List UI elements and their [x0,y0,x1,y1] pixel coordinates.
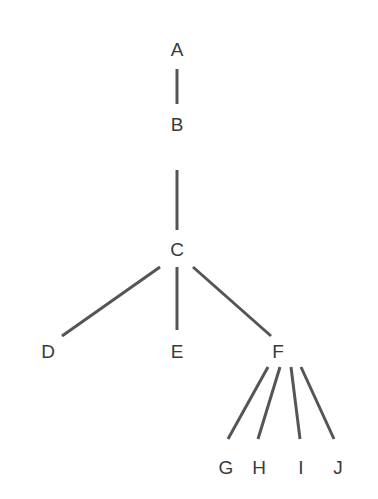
edge-c-f [193,267,271,336]
tree-diagram: A B C D E F G H I J [0,0,378,499]
node-i: I [298,457,303,478]
node-c: C [170,239,184,260]
node-a: A [171,39,184,60]
node-e: E [171,341,184,362]
edges [62,69,334,439]
edge-f-i [291,367,300,439]
node-j: J [333,457,343,478]
node-g: G [219,457,234,478]
edge-c-d [62,267,160,336]
node-h: H [252,457,266,478]
node-d: D [41,341,55,362]
edge-f-j [301,367,334,439]
node-f: F [272,341,284,362]
node-b: B [171,114,184,135]
